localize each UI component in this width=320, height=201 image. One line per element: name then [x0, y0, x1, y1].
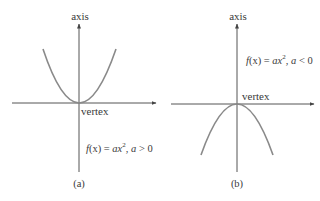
panel-a: axis vertex f(x) = ax2, a > 0 (a) — [12, 10, 156, 190]
formula-b-cond-op: < — [296, 55, 307, 66]
formula-b-cond-val: 0 — [307, 55, 312, 66]
formula-b: f(x) = ax2, a < 0 — [246, 53, 313, 67]
vertex-label-a: vertex — [81, 105, 109, 117]
axis-label-b: axis — [229, 10, 247, 22]
formula-a-eq: = — [101, 143, 112, 154]
panel-b: axis vertex f(x) = ax2, a < 0 (b) — [171, 10, 314, 190]
formula-a-cond-val: 0 — [147, 143, 152, 154]
caption-b: (b) — [231, 178, 244, 190]
caption-a: (a) — [73, 178, 85, 190]
formula-a-arg: (x) — [89, 143, 102, 155]
formula-b-arg: (x) — [249, 55, 262, 67]
formula-b-eq: = — [261, 55, 272, 66]
parabola-diagram: axis vertex f(x) = ax2, a > 0 (a) axis v… — [0, 0, 320, 201]
formula-a-cond-op: > — [136, 143, 147, 154]
axis-label-a: axis — [71, 10, 89, 22]
formula-a: f(x) = ax2, a > 0 — [86, 141, 153, 155]
vertex-label-b: vertex — [242, 90, 270, 102]
